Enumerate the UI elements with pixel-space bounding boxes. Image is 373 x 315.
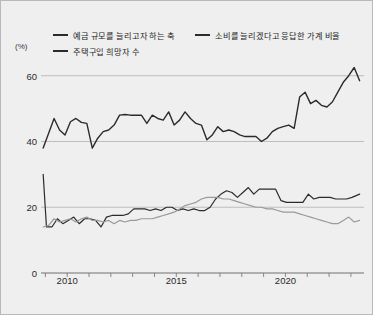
legend-label: 소비를 늘리겠다고 응답한 가계 비율 xyxy=(215,29,340,41)
legend-row: 주택구입 희망자 수 xyxy=(53,43,369,59)
series-paths xyxy=(43,68,359,227)
series-line-2 xyxy=(43,197,359,227)
chart-legend: 예금 규모를 늘리고자 하는 축소비를 늘리겠다고 응답한 가계 비율주택구입 … xyxy=(53,27,369,59)
y-axis-tick-labels: 0204060 xyxy=(9,1,37,315)
legend-item[interactable]: 주택구입 희망자 수 xyxy=(53,45,140,57)
y-axis-tick-label: 20 xyxy=(11,202,37,213)
x-axis-tick-label: 2010 xyxy=(57,275,78,286)
legend-row: 예금 규모를 늘리고자 하는 축소비를 늘리겠다고 응답한 가계 비율 xyxy=(53,27,369,43)
y-axis-tick-label: 0 xyxy=(11,268,37,279)
y-axis-tick-label: 40 xyxy=(11,136,37,147)
legend-line-icon xyxy=(195,34,210,36)
series-line-0 xyxy=(43,68,359,149)
y-axis-tick-label: 60 xyxy=(11,70,37,81)
x-axis-tick-label: 2020 xyxy=(275,275,296,286)
legend-item[interactable]: 예금 규모를 늘리고자 하는 축 xyxy=(53,29,175,41)
legend-label: 주택구입 희망자 수 xyxy=(73,45,140,57)
legend-line-icon xyxy=(53,50,68,52)
gridlines xyxy=(41,76,364,273)
legend-line-icon xyxy=(53,34,68,36)
x-axis-tick-label: 2015 xyxy=(166,275,187,286)
x-axis-ticks xyxy=(45,273,351,277)
chart-figure: (%) 0204060 예금 규모를 늘리고자 하는 축소비를 늘리겠다고 응답… xyxy=(0,0,373,315)
legend-label: 예금 규모를 늘리고자 하는 축 xyxy=(73,29,175,41)
legend-item[interactable]: 소비를 늘리겠다고 응답한 가계 비율 xyxy=(195,29,340,41)
